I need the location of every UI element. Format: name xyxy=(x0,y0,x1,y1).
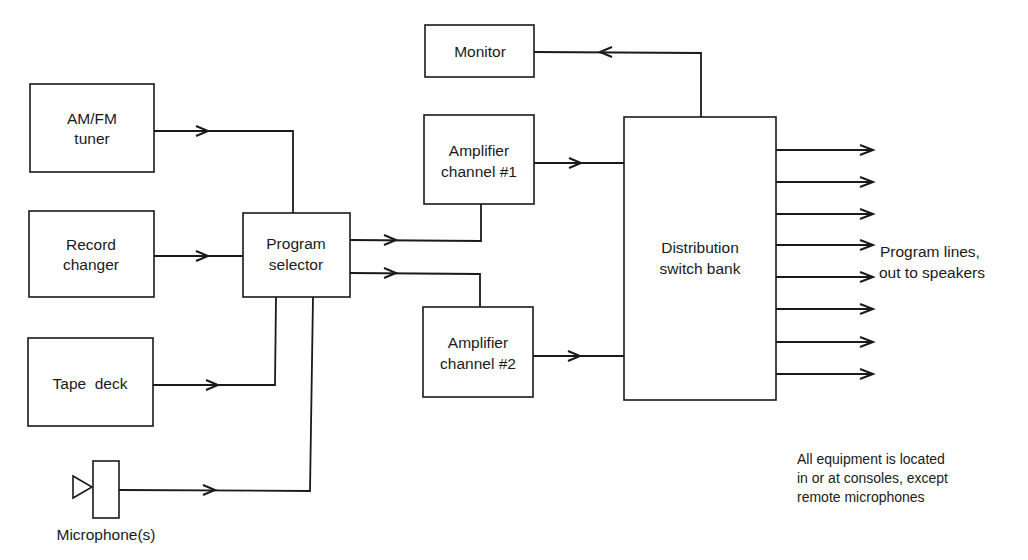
program-line-8 xyxy=(776,369,873,379)
program-lines-label-line2: out to speakers xyxy=(879,264,985,281)
amp1-label-line2: channel #1 xyxy=(441,163,517,180)
microphone-icon xyxy=(73,476,92,498)
program-selector-label-line1: Program xyxy=(266,235,325,252)
record-changer-label-line2: changer xyxy=(63,256,119,273)
program-lines-label-line1: Program lines, xyxy=(880,243,980,260)
program-line-outputs xyxy=(776,145,873,379)
program-lines-label: Program lines, out to speakers xyxy=(879,243,985,281)
equipment-location-note: All equipment is located in or at consol… xyxy=(797,451,948,505)
program-line-2 xyxy=(776,177,873,187)
tuner-label-line1: AM/FM xyxy=(67,110,117,127)
microphone-label: Microphone(s) xyxy=(56,526,155,543)
block-program-selector: Program selector xyxy=(243,213,350,297)
record-changer-label-line1: Record xyxy=(66,236,116,253)
note-line1: All equipment is located xyxy=(797,451,945,467)
wire-selector-to-amp2 xyxy=(350,268,480,307)
block-monitor: Monitor xyxy=(425,25,534,77)
audio-distribution-block-diagram: AM/FM tuner Record changer Tape deck Mic… xyxy=(0,0,1028,560)
tape-deck-label: Tape deck xyxy=(53,375,128,392)
block-amplifier-channel-1: Amplifier channel #1 xyxy=(424,115,534,204)
wire-tape-deck-to-selector xyxy=(153,297,276,390)
amp2-label-line2: channel #2 xyxy=(440,355,516,372)
program-line-3 xyxy=(776,209,873,219)
block-distribution-switch-bank: Distribution switch bank xyxy=(624,117,776,400)
wire-tuner-to-selector xyxy=(154,126,293,213)
note-line2: in or at consoles, except xyxy=(797,470,948,486)
distribution-label-line1: Distribution xyxy=(661,239,739,256)
program-line-5 xyxy=(776,272,873,282)
wire-distribution-to-monitor xyxy=(534,47,701,117)
program-line-7 xyxy=(776,337,873,347)
block-am-fm-tuner: AM/FM tuner xyxy=(30,84,154,172)
block-microphone: Microphone(s) xyxy=(56,461,155,543)
distribution-label-line2: switch bank xyxy=(660,260,741,277)
block-amplifier-channel-2: Amplifier channel #2 xyxy=(423,307,533,397)
wire-record-changer-to-selector xyxy=(154,251,243,261)
program-selector-label-line2: selector xyxy=(269,256,323,273)
program-line-4 xyxy=(776,240,873,250)
wire-amp2-to-distribution xyxy=(533,351,624,361)
amp1-label-line1: Amplifier xyxy=(449,142,509,159)
wire-selector-to-amp1 xyxy=(350,204,481,245)
monitor-label: Monitor xyxy=(454,43,506,60)
tuner-label-line2: tuner xyxy=(74,130,109,147)
amp2-label-line1: Amplifier xyxy=(448,334,508,351)
note-line3: remote microphones xyxy=(797,489,925,505)
program-line-1 xyxy=(776,145,873,155)
block-record-changer: Record changer xyxy=(29,211,154,297)
block-tape-deck: Tape deck xyxy=(28,338,153,426)
wire-amp1-to-distribution xyxy=(534,158,624,168)
program-line-6 xyxy=(776,304,873,314)
